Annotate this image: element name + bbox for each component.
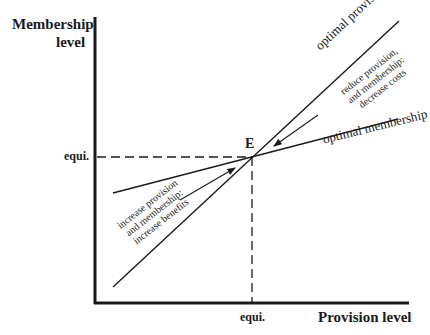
optimal-provision-line — [113, 21, 399, 287]
equilibrium-point-label: E — [245, 136, 254, 152]
y-axis-equilibrium-tick: equi. — [64, 149, 89, 164]
y-axis-label-line1: Membership — [12, 16, 94, 33]
x-axis-equilibrium-tick: equi. — [240, 310, 265, 325]
y-axis-label-line2: level — [56, 34, 85, 51]
x-axis-label: Provision level — [318, 309, 411, 326]
